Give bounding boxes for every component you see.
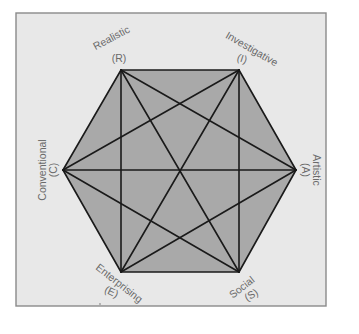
label-conventional-code: (C) bbox=[47, 163, 59, 178]
print-speck bbox=[99, 303, 101, 305]
label-realistic-code: (R) bbox=[112, 52, 127, 64]
label-artistic-code: (A) bbox=[300, 163, 312, 177]
riasec-hexagon-diagram: Realistic (R) Investigative (I) Artistic… bbox=[0, 0, 359, 334]
